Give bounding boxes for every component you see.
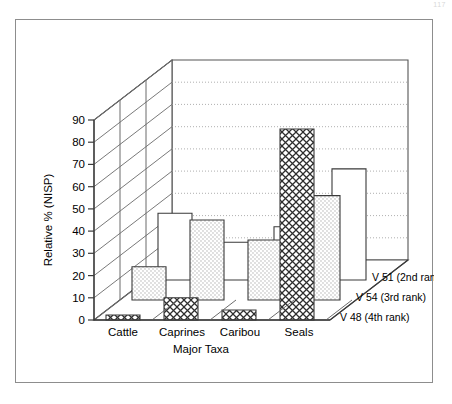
x-tick-label: Cattle	[108, 326, 138, 338]
y-tick-label: 60	[72, 181, 85, 193]
y-tick-label: 50	[72, 203, 85, 215]
y-tick-label: 10	[72, 292, 85, 304]
x-axis-title: Major Taxa	[173, 343, 230, 355]
legend-entry-row1: V 51 (2nd rank)	[372, 271, 434, 283]
bar-row3-cattle[interactable]	[106, 315, 140, 320]
legend-entry-row3: V 48 (4th rank)	[340, 311, 409, 323]
x-tick-label: Caprines	[159, 326, 205, 338]
x-tick-label: Caribou	[220, 326, 260, 338]
y-tick-label: 70	[72, 158, 85, 170]
bar-row2-caribou[interactable]	[248, 240, 282, 300]
y-tick-label: 80	[72, 136, 85, 148]
page-number: 117	[433, 1, 446, 8]
bar-row3-seals[interactable]	[280, 129, 314, 320]
bar-row2-cattle[interactable]	[132, 267, 166, 300]
x-tick-labels: Cattle Caprines Caribou Seals	[108, 326, 314, 338]
y-tick-label: 90	[72, 114, 85, 126]
y-tick-label: 30	[72, 247, 85, 259]
figure-frame: 0 10 20 30 40 50 60 70 80 90 Relative % …	[15, 19, 433, 383]
y-tick-labels: 0 10 20 30 40 50 60 70 80 90	[72, 114, 85, 326]
bar-row3-caribou[interactable]	[222, 310, 256, 320]
y-axis-title: Relative % (NISP)	[42, 174, 54, 267]
figure-caption	[40, 398, 430, 403]
legend-entry-row2: V 54 (3rd rank)	[356, 291, 426, 303]
y-tick-label: 0	[79, 314, 85, 326]
bar-chart-3d: 0 10 20 30 40 50 60 70 80 90 Relative % …	[16, 20, 434, 384]
bar-row2-caprines[interactable]	[190, 220, 224, 300]
y-tick-label: 40	[72, 225, 85, 237]
chart-plot-area: 0 10 20 30 40 50 60 70 80 90 Relative % …	[16, 20, 434, 384]
y-tick-label: 20	[72, 270, 85, 282]
y-axis	[88, 120, 94, 320]
bar-row3-caprines[interactable]	[164, 298, 198, 320]
x-tick-label: Seals	[285, 326, 314, 338]
